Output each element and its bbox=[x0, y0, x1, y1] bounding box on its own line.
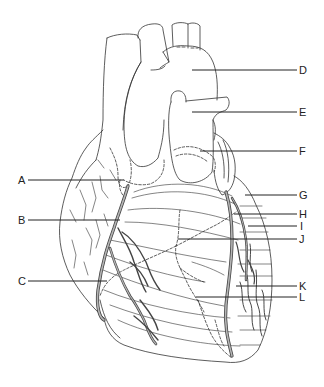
brachiocephalic-trunk bbox=[123, 24, 169, 130]
heart-diagram bbox=[0, 0, 324, 387]
label-A: A bbox=[18, 175, 25, 186]
label-F: F bbox=[299, 146, 306, 157]
label-J: J bbox=[299, 234, 305, 245]
label-C: C bbox=[18, 276, 26, 287]
aortic-arch bbox=[163, 46, 217, 100]
ascending-aorta bbox=[124, 62, 164, 167]
left-auricle bbox=[214, 133, 235, 195]
left-carotid-artery bbox=[172, 23, 188, 48]
label-I: I bbox=[300, 221, 303, 232]
label-H: H bbox=[299, 209, 307, 220]
leader-lines bbox=[28, 70, 297, 297]
atrium-texture bbox=[70, 160, 116, 275]
ventricle-texture bbox=[240, 244, 266, 336]
superior-vena-cava bbox=[96, 34, 140, 160]
pulmonary-trunk bbox=[171, 91, 186, 102]
posterior-vessels-dashed bbox=[100, 147, 236, 358]
label-D: D bbox=[299, 65, 307, 76]
label-B: B bbox=[18, 215, 25, 226]
label-G: G bbox=[299, 190, 308, 201]
label-L: L bbox=[299, 292, 305, 303]
label-E: E bbox=[299, 107, 306, 118]
